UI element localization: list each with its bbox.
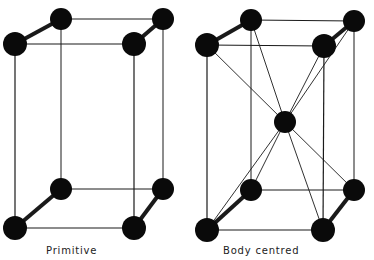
atom	[343, 179, 365, 201]
atom	[122, 216, 146, 240]
center-atom	[274, 111, 296, 133]
primitive-atoms	[3, 8, 174, 240]
lattice-diagram	[0, 0, 374, 260]
atom	[122, 32, 146, 56]
body-centred-label: Body centred	[223, 245, 299, 256]
atom	[240, 9, 262, 31]
atom	[152, 178, 174, 200]
atom	[50, 8, 72, 30]
atom	[312, 34, 336, 58]
atom	[152, 8, 174, 30]
atom	[195, 33, 219, 57]
atom	[3, 216, 27, 240]
atom	[3, 32, 27, 56]
atom	[240, 179, 262, 201]
atom	[195, 218, 219, 242]
primitive-label: Primitive	[46, 245, 97, 256]
atom	[50, 178, 72, 200]
atom	[343, 10, 365, 32]
atom	[311, 218, 335, 242]
